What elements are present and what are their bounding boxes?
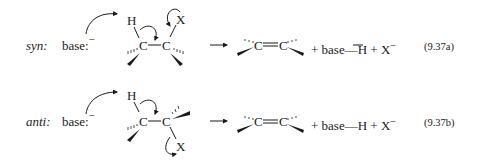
atom-h: H (127, 14, 136, 27)
product-c-right: C (279, 115, 288, 128)
atom-c1: C (139, 39, 148, 52)
anti-reactant-bonds (86, 92, 190, 154)
curved-arrow-hc-to-cc-icon (140, 100, 156, 114)
byproducts-text: + base—H + X (311, 118, 390, 133)
base-charge: − (89, 33, 95, 46)
atom-x: X (176, 13, 185, 26)
product-c-right: C (279, 39, 288, 52)
reaction-label: anti: (26, 115, 51, 128)
product-c-left: C (254, 39, 263, 52)
atom-h: H (127, 89, 136, 102)
base-label: base: (62, 115, 89, 128)
byproduct-charge: − (390, 116, 396, 127)
curved-arrow-x-leaving-icon (166, 137, 176, 154)
base-charge: − (89, 109, 95, 122)
base-label: base: (62, 39, 89, 52)
anti-product-bonds (237, 116, 304, 133)
byproduct-charge: − (390, 40, 396, 51)
byproducts: + base—H + X− (311, 39, 396, 56)
reaction-label: syn: (26, 39, 48, 52)
atom-c2: C (162, 39, 171, 52)
product-c-left: C (254, 115, 263, 128)
byproducts: + base—H + X− (311, 115, 396, 132)
equation-number: (9.37a) (424, 40, 454, 53)
byproducts-text: + base—H + X (311, 42, 390, 57)
atom-x: X (176, 140, 185, 153)
equation-number: (9.37b) (424, 116, 455, 129)
mechanism-drawing (0, 0, 477, 160)
atom-c2: C (162, 115, 171, 128)
curved-arrow-base-to-h-icon (86, 14, 117, 34)
atom-c1: C (139, 115, 148, 128)
